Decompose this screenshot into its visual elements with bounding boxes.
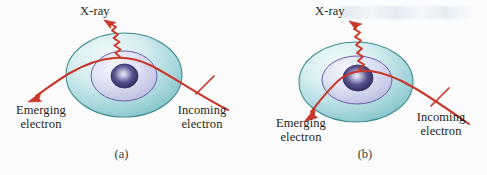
emerging-electron-label-a-line1: Emerging [5,103,77,117]
panel-b: X-ray Emerging electron Incoming electro… [243,0,487,175]
emerging-electron-label-b-line2: electron [265,130,337,144]
xray-arrowhead-b [349,21,362,30]
emerging-electron-label-b: Emerging electron [265,116,337,144]
incoming-electron-label-b-line2: electron [403,124,479,138]
figure-root: X-ray Emerging electron Incoming electro… [0,0,487,175]
incoming-electron-label-a-line1: Incoming [166,103,238,117]
emerging-electron-label-b-line1: Emerging [265,116,337,130]
xray-arrowhead-a [104,20,116,29]
incoming-electron-label-a: Incoming electron [166,103,238,131]
panel-a: X-ray Emerging electron Incoming electro… [0,0,243,175]
panel-a-caption: (a) [0,147,243,162]
emerging-electron-label-a: Emerging electron [5,103,77,131]
incoming-leader-a [196,76,214,94]
xray-label-b: X-ray [315,5,345,19]
emerging-arrowhead-a [28,92,42,102]
incoming-electron-label-b-line1: Incoming [403,110,479,124]
xray-label-a: X-ray [80,5,110,19]
incoming-electron-label-a-line2: electron [166,117,238,131]
nucleus-b [343,65,373,91]
emerging-electron-label-a-line2: electron [5,117,77,131]
incoming-electron-label-b: Incoming electron [403,110,479,138]
panel-b-caption: (b) [243,147,487,162]
nucleus-a [111,64,138,88]
